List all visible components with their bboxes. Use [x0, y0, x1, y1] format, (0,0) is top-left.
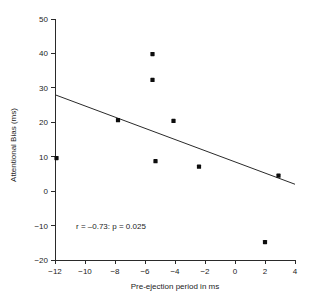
data-points-group — [54, 52, 280, 244]
data-point — [150, 78, 154, 82]
y-axis-ticks — [51, 19, 55, 260]
y-tick-labels: −20−1001020304050 — [34, 15, 48, 265]
data-point — [197, 165, 201, 169]
x-tick-label: −4 — [170, 267, 180, 276]
x-tick-label: −12 — [48, 267, 62, 276]
y-tick-label: 40 — [39, 49, 48, 58]
y-axis-title: Attentional Bias (ms) — [9, 108, 18, 182]
data-point — [150, 52, 154, 56]
y-tick-label: −10 — [34, 222, 48, 231]
data-point — [276, 174, 280, 178]
data-point — [171, 119, 175, 123]
x-axis-title: Pre-ejection period in ms — [131, 282, 219, 291]
plot-canvas: −20−1001020304050 −12−10−8−6−4−2024 r = … — [0, 0, 315, 305]
y-tick-label: 30 — [39, 84, 48, 93]
x-tick-label: 2 — [263, 267, 268, 276]
data-point — [153, 159, 157, 163]
annotations-group: r = –0.73: p = 0.025 — [76, 222, 146, 231]
y-tick-label: 20 — [39, 118, 48, 127]
x-tick-labels: −12−10−8−6−4−2024 — [48, 267, 298, 276]
x-tick-label: −8 — [110, 267, 120, 276]
data-point — [116, 118, 120, 122]
regression-line — [55, 95, 295, 185]
correlation-annotation: r = –0.73: p = 0.025 — [76, 222, 146, 231]
y-tick-label: 0 — [44, 187, 49, 196]
y-tick-label: 10 — [39, 153, 48, 162]
x-tick-label: −6 — [140, 267, 150, 276]
regression-line-group — [55, 95, 295, 185]
x-tick-label: 0 — [233, 267, 238, 276]
x-tick-label: −10 — [78, 267, 92, 276]
y-tick-label: 50 — [39, 15, 48, 24]
x-axis-ticks — [55, 260, 295, 264]
x-tick-label: 4 — [293, 267, 298, 276]
y-tick-label: −20 — [34, 256, 48, 265]
data-point — [54, 156, 58, 160]
x-tick-label: −2 — [200, 267, 210, 276]
data-point — [263, 240, 267, 244]
scatter-plot-figure: −20−1001020304050 −12−10−8−6−4−2024 r = … — [0, 0, 315, 305]
